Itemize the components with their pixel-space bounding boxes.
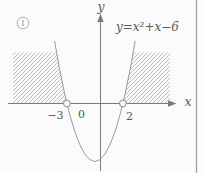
y-axis-label: y bbox=[96, 0, 105, 14]
open-point-left-root bbox=[64, 100, 71, 107]
figure-index-number: 1 bbox=[20, 19, 25, 28]
open-point-right-root bbox=[120, 100, 127, 107]
right-root-tick-label: 2 bbox=[126, 110, 133, 123]
parabola-graph-figure: 1 y=x²+x−6 y x 0 −3 2 bbox=[0, 0, 203, 173]
textbook-figure-panel: 1 y=x²+x−6 y x 0 −3 2 bbox=[0, 0, 203, 173]
equation-label: y=x²+x−6 bbox=[115, 20, 179, 34]
origin-tick-label: 0 bbox=[78, 108, 85, 121]
left-root-tick-label: −3 bbox=[47, 109, 63, 122]
x-axis-label: x bbox=[185, 94, 192, 109]
